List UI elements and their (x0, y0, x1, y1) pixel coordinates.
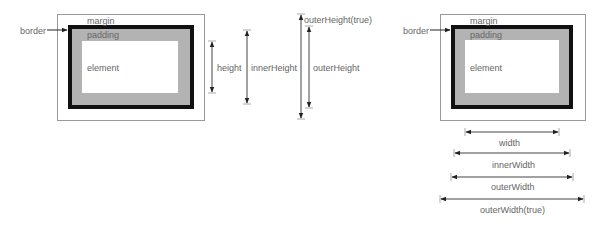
width-label: width (499, 138, 520, 148)
height-label: height (217, 63, 242, 73)
outerwidth-true-arrow-icon (440, 195, 584, 203)
innerheight-label: innerHeight (251, 63, 297, 73)
height-arrow-icon (208, 41, 216, 93)
outerwidth-arrow-icon (451, 173, 573, 181)
outerheight-true-arrow-icon (297, 14, 305, 119)
innerwidth-label: innerWidth (492, 160, 535, 170)
innerheight-arrow-icon (243, 30, 251, 104)
outerheight-label: outerHeight (313, 63, 360, 73)
width-arrow-icon (465, 128, 559, 136)
outerwidth-label: outerWidth (491, 182, 535, 192)
innerwidth-arrow-icon (454, 149, 570, 157)
outerheight-true-label: outerHeight(true) (304, 15, 372, 25)
outerwidth-true-label: outerWidth(true) (480, 205, 545, 215)
outerheight-arrow-icon (305, 26, 313, 108)
